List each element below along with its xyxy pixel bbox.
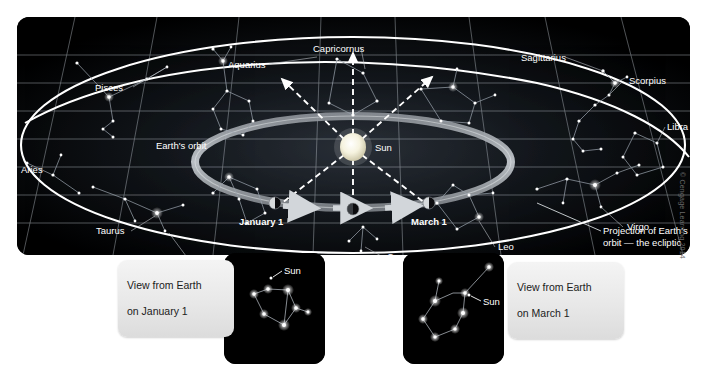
inset-january-svg: Sun xyxy=(224,253,325,364)
inset-january-sun-label: Sun xyxy=(284,265,301,276)
inset-march-sun-label: Sun xyxy=(483,296,500,307)
sky-diagram-svg: Sun Earth's orbit xyxy=(17,17,690,255)
constellation-label-libra: Libra xyxy=(667,121,689,132)
inset-panel-january: Sun xyxy=(224,253,325,364)
inset-january-sun-marker xyxy=(270,277,273,280)
earth-position-midpoint xyxy=(347,203,359,215)
sky-panel: Sun Earth's orbit xyxy=(17,17,690,255)
inset-march-sun-marker xyxy=(468,294,471,297)
constellation-label-capricornus: Capricornus xyxy=(313,43,364,54)
constellation-label-leo: Leo xyxy=(498,241,514,252)
constellation-label-pisces: Pisces xyxy=(95,82,123,93)
constellation-label-scorpius: Scorpius xyxy=(629,75,666,86)
callout-view-from-earth-january: View from Earth on January 1 xyxy=(118,260,234,337)
callout-january-line1: View from Earth xyxy=(127,279,225,292)
callout-january-line2: on January 1 xyxy=(127,305,225,318)
earth-orbit-label: Earth's orbit xyxy=(156,140,207,151)
earth-position-march xyxy=(423,197,435,209)
astronomy-figure: Sun Earth's orbit xyxy=(0,0,713,380)
callout-march-line1: View from Earth xyxy=(517,281,615,294)
constellation-label-gemini: Gemini xyxy=(192,254,222,255)
constellation-label-virgo: Virgo xyxy=(627,221,649,232)
inset-march-svg: Sun xyxy=(403,253,504,364)
earth-position-label-march: March 1 xyxy=(411,216,448,227)
sun-glyph xyxy=(334,128,372,166)
copyright-notice: © Cengage Learning 2014 xyxy=(679,172,686,259)
sun-label: Sun xyxy=(375,142,392,153)
earth-position-january xyxy=(269,197,281,209)
constellation-label-aquarius: Aquarius xyxy=(228,59,266,70)
constellation-label-sagittarius: Sagittarius xyxy=(521,52,566,63)
callout-view-from-earth-march: View from Earth on March 1 xyxy=(508,262,624,339)
constellation-label-taurus: Taurus xyxy=(96,225,125,236)
ecliptic-label-line2: orbit — the ecliptic xyxy=(603,237,681,248)
earth-position-label-january: January 1 xyxy=(239,216,284,227)
constellation-label-aries: Aries xyxy=(21,164,43,175)
inset-panel-march: Sun xyxy=(403,253,504,364)
callout-march-line2: on March 1 xyxy=(517,307,615,320)
